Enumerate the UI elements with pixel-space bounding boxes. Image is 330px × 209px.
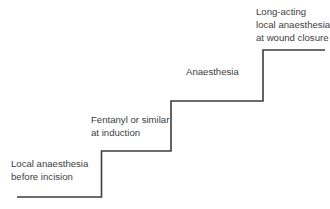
step-3-label: Anaesthesia (186, 65, 239, 78)
step-2-label: Fentanyl or similar at induction (91, 113, 169, 139)
step-4-label: Long-acting local anaesthesia at wound c… (256, 5, 330, 44)
step-1-label: Local anaesthesia before incision (11, 157, 88, 183)
